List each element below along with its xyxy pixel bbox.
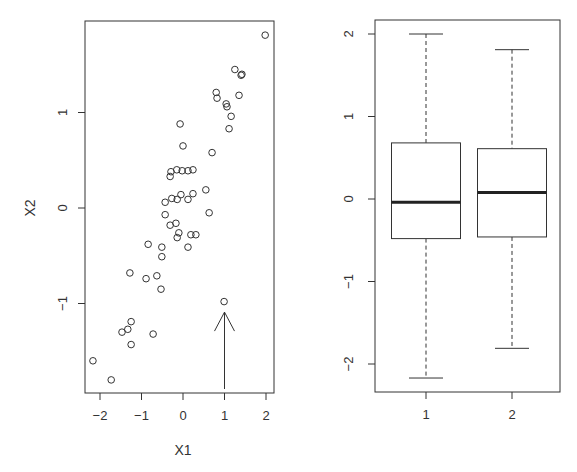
x-tick-label: −2: [93, 408, 108, 423]
data-point: [193, 231, 200, 238]
box-plot-boxes: [392, 34, 547, 378]
data-point: [162, 199, 169, 206]
y-tick-label: −2: [341, 357, 356, 372]
data-point: [178, 191, 185, 198]
box-2: [478, 50, 547, 349]
data-point: [232, 66, 239, 73]
box-x-axis: 12: [422, 392, 515, 422]
scatter-plot-panel: −2−1012 −101 X1 X2: [22, 21, 274, 458]
data-point: [203, 187, 210, 194]
scatter-plot-frame: [85, 21, 274, 393]
box-1: [392, 34, 461, 378]
data-point: [119, 329, 126, 336]
x-tick-label: 1: [221, 408, 228, 423]
data-point: [228, 113, 235, 120]
data-point: [154, 273, 161, 280]
data-point: [150, 331, 157, 338]
data-point: [162, 211, 169, 218]
y-tick-label: 0: [55, 204, 70, 211]
data-point: [128, 341, 135, 348]
data-point: [185, 196, 192, 203]
x-tick-label: 2: [508, 407, 515, 422]
y-tick-label: −1: [55, 296, 70, 311]
data-point: [236, 92, 243, 99]
scatter-x-label: X1: [174, 442, 191, 458]
y-tick-label: 1: [341, 113, 356, 120]
data-point: [206, 209, 213, 216]
scatter-y-label: X2: [22, 199, 38, 216]
data-point: [159, 244, 166, 251]
x-tick-label: 0: [179, 408, 186, 423]
data-point: [159, 253, 166, 260]
data-point: [128, 318, 135, 325]
data-point: [108, 377, 115, 384]
scatter-annotation-arrow: [215, 312, 235, 389]
box-plot-panel: 12 −2−1012: [341, 20, 560, 422]
data-point: [145, 241, 152, 248]
data-point: [143, 275, 150, 282]
x-tick-label: 2: [262, 408, 269, 423]
y-tick-label: 2: [341, 30, 356, 37]
data-point: [262, 32, 269, 39]
y-tick-label: −1: [341, 274, 356, 289]
data-point: [209, 149, 216, 156]
data-point: [127, 270, 134, 277]
data-point: [158, 286, 165, 293]
y-tick-label: 1: [55, 109, 70, 116]
data-point: [185, 244, 192, 251]
data-point: [180, 143, 187, 150]
x-tick-label: −1: [134, 408, 149, 423]
y-tick-label: 0: [341, 195, 356, 202]
data-point: [221, 298, 228, 305]
data-point: [177, 121, 184, 128]
figure: −2−1012 −101 X1 X2 12 −2−1012: [0, 0, 577, 472]
data-point: [190, 190, 197, 197]
data-point: [167, 173, 174, 180]
data-point: [226, 125, 233, 132]
data-point: [90, 358, 97, 365]
iqr-box: [392, 143, 461, 239]
scatter-points: [90, 32, 269, 383]
box-y-axis: −2−1012: [341, 30, 375, 371]
scatter-y-axis: −101: [55, 109, 85, 311]
scatter-x-axis: −2−1012: [93, 393, 270, 423]
data-point: [173, 220, 180, 227]
x-tick-label: 1: [422, 407, 429, 422]
